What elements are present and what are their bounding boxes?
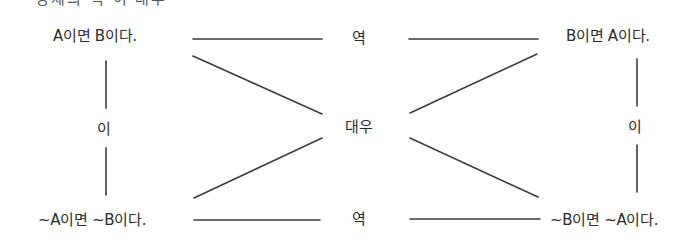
proposition-inverse: ~A이면 ~B이다. [38, 211, 146, 229]
contrapositive-diag-bottom-left [194, 138, 322, 198]
contrapositive-diag-top-right [410, 54, 537, 113]
relation-converse-top: 역 [352, 29, 366, 47]
relation-inverse-right: 이 [628, 118, 642, 136]
logic-relations-diagram: 명제의 역·이·대우 A이면 B이다. B이면 A이다. ~A이면 ~B이다. … [0, 0, 691, 243]
contrapositive-diag-bottom-right [410, 138, 538, 197]
relation-inverse-left: 이 [97, 120, 111, 138]
contrapositive-diag-top-left [193, 56, 322, 114]
proposition-original: A이면 B이다. [53, 27, 137, 45]
proposition-converse: B이면 A이다. [566, 27, 650, 45]
relation-converse-bottom: 역 [352, 210, 366, 228]
proposition-contrapositive: ~B이면 ~A이다. [550, 211, 658, 229]
relation-contrapositive-center: 대우 [345, 118, 372, 136]
